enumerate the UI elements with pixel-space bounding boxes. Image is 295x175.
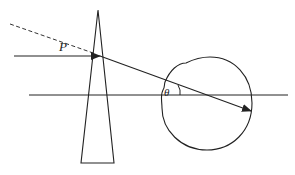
prism (81, 10, 114, 163)
dashed-ray (10, 24, 96, 54)
angle-arc (178, 85, 180, 95)
diagram-canvas: P θ (0, 0, 295, 175)
label-theta: θ (164, 87, 169, 98)
eye-outline (161, 57, 252, 150)
label-p: P (59, 40, 67, 53)
refracted-ray (100, 56, 251, 111)
diagram-svg (0, 0, 295, 175)
